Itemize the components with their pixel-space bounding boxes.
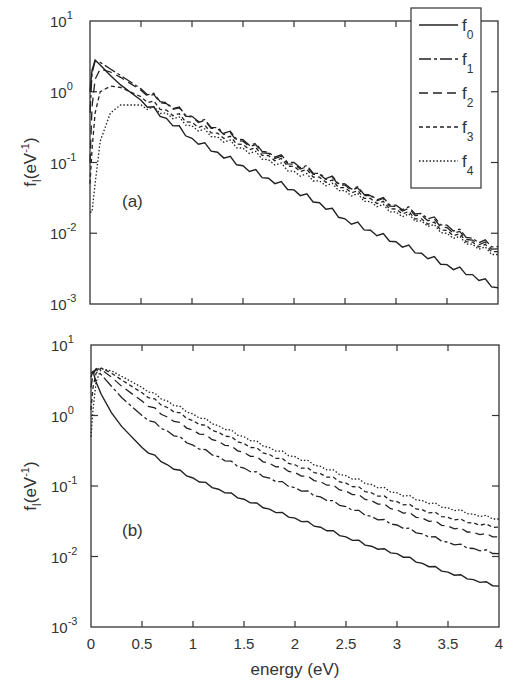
panel-b: 10110010-110-210-3 (b) fl(eV-1) 00.511.5… [19, 333, 503, 679]
y-tick-label: 100 [51, 404, 74, 425]
x-axis-label: energy (eV) [251, 660, 340, 679]
x-tick-label: 1 [189, 635, 197, 652]
x-tick-labels: 00.511.522.533.54 [87, 635, 503, 652]
y-tick-labels-b: 10110010-110-210-3 [51, 333, 77, 636]
y-tick-label: 101 [51, 333, 74, 354]
x-tick-label: 2.5 [336, 635, 357, 652]
y-tick-label: 10-3 [50, 292, 76, 313]
panel-label-a: (a) [122, 192, 143, 211]
y-tick-label: 10-2 [50, 221, 76, 242]
y-tick-labels-a: 10110010-110-210-3 [50, 9, 76, 313]
x-tick-label: 3 [393, 635, 401, 652]
y-tick-label: 10-3 [51, 615, 77, 636]
legend: f0f1f2f3f4 [411, 8, 481, 188]
curve-f4 [91, 369, 499, 519]
panel-label-b: (b) [122, 521, 143, 540]
axis-ticks-b [91, 345, 499, 627]
x-tick-label: 1.5 [234, 635, 255, 652]
y-axis-label-b: fl(eV-1) [19, 461, 44, 510]
curve-f2 [91, 369, 499, 537]
panel-a: 10110010-110-210-3 (a) fl(eV-1) f0f1f2f3… [19, 8, 498, 313]
figure: 10110010-110-210-3 (a) fl(eV-1) f0f1f2f3… [0, 0, 510, 686]
x-tick-label: 0 [87, 635, 95, 652]
curves-b [91, 368, 499, 586]
y-tick-label: 100 [50, 80, 73, 101]
x-tick-label: 0.5 [132, 635, 153, 652]
y-tick-label: 10-1 [51, 474, 77, 495]
curve-f0 [91, 372, 499, 586]
curve-f3 [91, 368, 499, 527]
x-tick-label: 2 [291, 635, 299, 652]
curve-f1 [91, 369, 499, 553]
y-tick-label: 101 [50, 9, 73, 30]
x-tick-label: 4 [495, 635, 503, 652]
y-axis-label-a: fl(eV-1) [19, 137, 44, 186]
plot-frame-b [91, 345, 499, 627]
y-tick-label: 10-2 [51, 545, 77, 566]
x-tick-label: 3.5 [438, 635, 459, 652]
y-tick-label: 10-1 [50, 151, 76, 172]
